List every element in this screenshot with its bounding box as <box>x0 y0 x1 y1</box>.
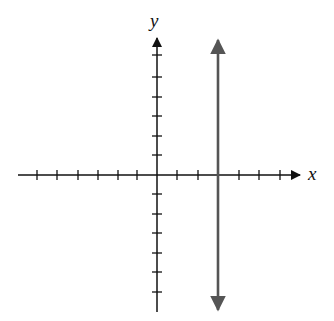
y-axis-label: y <box>148 10 159 31</box>
x-axis-label: x <box>307 163 317 184</box>
coordinate-plane: x y <box>0 0 334 321</box>
y-axis: y <box>148 10 162 312</box>
x-axis: x <box>18 163 317 184</box>
